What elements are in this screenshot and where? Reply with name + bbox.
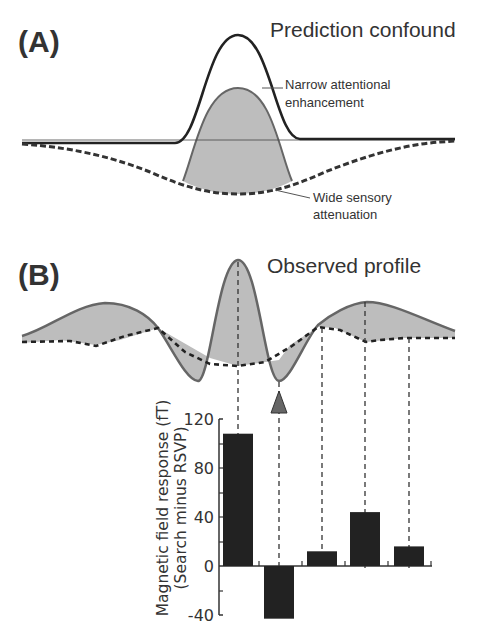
- bar-3: [307, 551, 337, 566]
- narrow-annotation-line1: Narrow attentional: [285, 77, 391, 92]
- panel-b-label: (B): [18, 258, 60, 291]
- ytick-0: 0: [204, 557, 214, 576]
- triangle-marker-icon: [271, 391, 287, 413]
- bars: [223, 434, 424, 619]
- figure: (A) Prediction confound Narrow attention…: [0, 0, 479, 635]
- wide-annotation-line1: Wide sensory: [313, 190, 392, 205]
- wide-leader: [275, 190, 310, 198]
- bar-4: [350, 512, 380, 566]
- ytick-120: 120: [183, 410, 214, 429]
- panel-a-title: Prediction confound: [270, 18, 456, 41]
- ytick-neg40: -40: [188, 606, 214, 625]
- ytick-80: 80: [194, 459, 214, 478]
- panel-b: (B) Observed profile: [18, 254, 455, 625]
- narrow-annotation-line2: enhancement: [285, 95, 364, 110]
- y-axis-label-line2: (Search minus RSVP): [172, 427, 190, 590]
- panel-a: (A) Prediction confound Narrow attention…: [18, 18, 456, 222]
- wide-annotation-line2: attenuation: [313, 207, 377, 222]
- panel-b-title: Observed profile: [267, 254, 421, 277]
- ytick-40: 40: [194, 508, 214, 527]
- bar-1: [223, 434, 253, 566]
- bar-5: [394, 546, 424, 566]
- y-axis-label-line1: Magnetic field response (fT): [154, 400, 172, 617]
- panel-a-label: (A): [18, 25, 60, 58]
- bar-chart: 120 80 40 0 -40 Magnetic field response …: [154, 400, 432, 625]
- bar-2: [264, 566, 294, 619]
